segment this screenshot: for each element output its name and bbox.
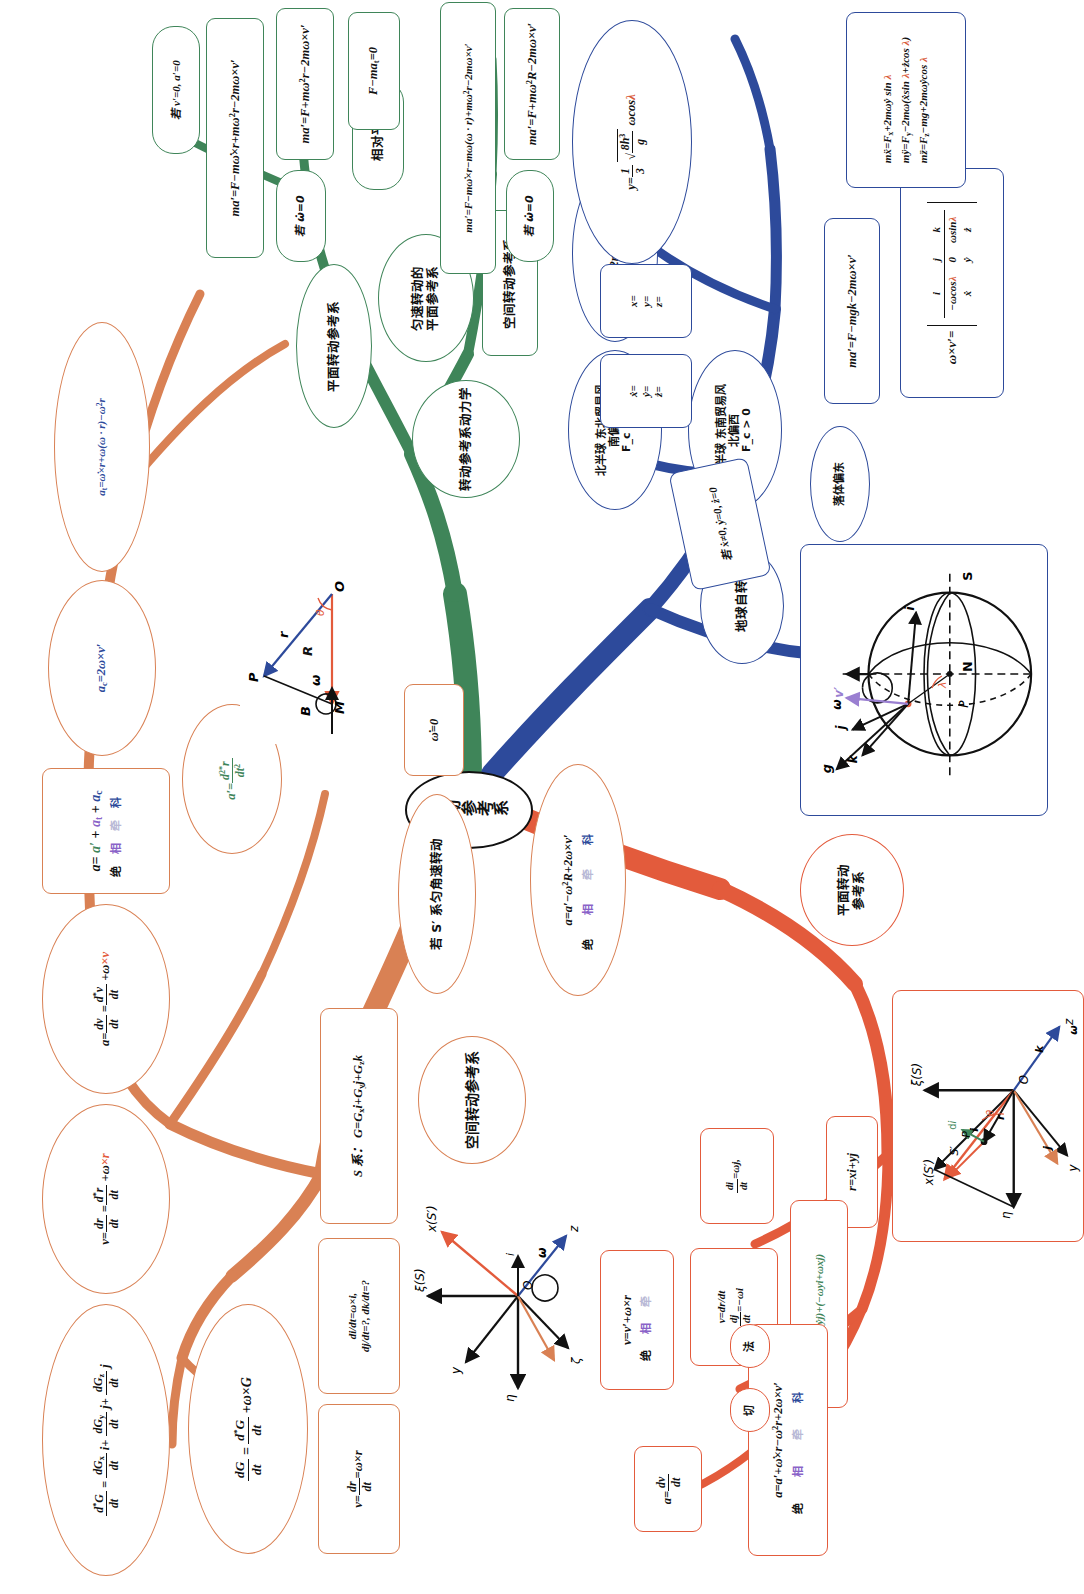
svg-text:η: η: [503, 1394, 517, 1402]
formula-cond-omega-dot-0b: 若 ω̇=0: [522, 191, 539, 240]
node-omega-dot-zero-orange[interactable]: ω̇=0: [404, 684, 464, 776]
formula-a-result: a=a′+ω̇×r−ω2r+2ω×v′: [768, 1378, 788, 1502]
node-green-plane-frame[interactable]: 平面转动参考系: [296, 264, 372, 428]
plane-a-labels: 绝相牵科: [581, 806, 598, 954]
node-v-omega-r[interactable]: v=drdt=ω×r: [318, 1404, 400, 1554]
formula-eq-plane-uniform: ma′=F+mω2r−2mω×v′: [295, 21, 315, 148]
svg-text:ω: ω: [1067, 1025, 1080, 1035]
formula-v-transform: v=drdt =d*rdt +ω×r: [90, 1149, 123, 1248]
diagram-earth: P λ g k j i v′ ω N S: [800, 544, 1048, 816]
svg-text:R: R: [300, 646, 315, 656]
node-dynamics-center[interactable]: 转动参考系动力学: [412, 380, 520, 498]
formula-a-decomposition: a= a′ + at + ac: [86, 787, 108, 876]
node-ac[interactable]: ac=2ω×v′: [48, 580, 156, 756]
node-cond-v-a-zero[interactable]: 若 v′=0, a′=0: [152, 26, 200, 154]
formula-S-frame: S 系： G=Gxi+Gyj+Gzk: [349, 1051, 368, 1181]
node-space-frame-orange[interactable]: 空间转动参考系: [418, 1036, 526, 1164]
node-deflection[interactable]: y=13 √8h3g ωcosλ: [572, 20, 692, 264]
node-falling-east[interactable]: 落体偏东: [810, 426, 870, 542]
node-dG-expand[interactable]: d*Gdt = dGxdt i+ dGydt j+ dGzdt j: [42, 1304, 170, 1576]
svg-text:O: O: [1017, 1075, 1031, 1084]
formula-ac: ac=2ω×v′: [92, 640, 111, 697]
formula-a-prime: a′=d2*rdt2: [216, 754, 249, 804]
node-S-frame[interactable]: S 系： G=Gxi+Gyj+Gzk: [320, 1008, 398, 1224]
formula-v-omega-r: v=drdt=ω×r: [343, 1446, 376, 1511]
formula-first-integrals: ẋ=ẏ=ż=: [625, 381, 668, 401]
node-di-dj-dk[interactable]: di/dt=ω×i,dj/dt=?, dk/dt=?: [318, 1238, 400, 1394]
formula-eq-motion-earth: ma′=F−mgk−2mω×v′: [843, 250, 862, 372]
node-tangent[interactable]: 切: [730, 1388, 770, 1432]
svg-text:M: M: [332, 701, 347, 714]
svg-text:θ: θ: [314, 609, 327, 616]
node-determinant[interactable]: ω×v′= i j k −ωcosλ 0 ωsinλ ẋ ẏ ż: [900, 168, 1004, 398]
svg-text:k: k: [1033, 1045, 1046, 1053]
formula-cond-omega-dot-0: 若 ω̇=0: [293, 191, 310, 240]
node-at[interactable]: at=ω̇×r+ω(ω · r)−ω2r: [54, 322, 150, 572]
formula-v-result: v=v′+ω×r: [618, 1291, 637, 1349]
diagram-space-axes: x(S′) ξ(S) η y ζ z O ω i: [406, 1188, 596, 1408]
node-eq-plane-uniform[interactable]: ma′=F+mω2r−2mω×v′: [276, 8, 334, 160]
node-eq-plane-full[interactable]: ma′=F−mω̇×r+mω2r−2mω×v′: [206, 18, 264, 258]
label-uniform-cond: 若 S′ 系匀角速转动: [428, 834, 447, 954]
node-cond-omega-dot-0b[interactable]: 若 ω̇=0: [506, 170, 554, 262]
node-eq-equilibrium[interactable]: F−mat=0: [348, 12, 400, 130]
formula-at: at=ω̇×r+ω(ω · r)−ω2r: [93, 394, 112, 499]
formula-di-dt: didt=ωj,: [722, 1155, 752, 1197]
svg-text:k: k: [846, 754, 860, 763]
svg-text:j: j: [1041, 1146, 1054, 1152]
formula-r-def: r=xi+yj: [843, 1149, 862, 1195]
svg-text:θ: θ: [985, 1110, 996, 1116]
node-dG-main[interactable]: dGdt = d*Gdt +ω×G: [188, 1304, 308, 1554]
svg-text:y: y: [449, 1366, 463, 1375]
label-red-plane-frame: 平面转动 参考系: [835, 860, 869, 920]
node-uniform-cond[interactable]: 若 S′ 系匀角速转动: [398, 794, 476, 994]
node-normal[interactable]: 法: [730, 1324, 770, 1368]
label-space-frame-orange: 空间转动参考系: [462, 1047, 483, 1153]
formula-dG-expand: d*Gdt = dGxdt i+ dGydt j+ dGzdt j: [89, 1360, 124, 1519]
formula-plane-a: a=a′−ω2R+2ω×v′: [558, 831, 578, 930]
svg-text:v′: v′: [832, 686, 846, 698]
formula-eq-plane-full: ma′=F−mω̇×r+mω2r−2mω×v′: [225, 55, 245, 220]
svg-text:z: z: [1062, 1018, 1076, 1026]
node-a-def[interactable]: a=dvdt: [634, 1446, 702, 1532]
svg-text:ξ(S): ξ(S): [910, 1063, 924, 1087]
node-second-integrals[interactable]: x=y=z=: [600, 264, 692, 338]
label-tangent: 切: [742, 1401, 759, 1420]
node-eq-space-full[interactable]: ma′=F−mω̇×r−mω(ω · r)+mω2r−2mω×v′: [440, 2, 496, 274]
node-cond-omega-dot-0[interactable]: 若 ω̇=0: [276, 170, 326, 262]
node-eq-space-uniform[interactable]: ma′=F+mω2R−2mω×v′: [504, 8, 560, 160]
formula-a-def: a=dvdt: [652, 1470, 685, 1509]
label-green-plane-frame: 平面转动参考系: [325, 297, 344, 396]
label-earth-rotation: 地球自转: [733, 576, 752, 636]
node-v-transform[interactable]: v=drdt =d*rdt +ω×r: [42, 1104, 170, 1294]
svg-text:i: i: [968, 1128, 981, 1132]
node-eq-motion-earth[interactable]: ma′=F−mgk−2mω×v′: [824, 218, 880, 404]
diagram-plane-frame: x(S′) ξ(S) η y z O P S′ r i j k ω θ di: [892, 990, 1084, 1242]
label-uniform-plane-frame: 匀速转动的 平面参考系: [409, 262, 443, 335]
node-di-dt[interactable]: didt=ωj,: [700, 1128, 774, 1224]
label-normal: 法: [742, 1337, 759, 1356]
label-dynamics-center: 转动参考系动力学: [457, 383, 476, 495]
svg-text:z: z: [567, 1225, 581, 1233]
node-a-transform[interactable]: a=dvdt =d*vdt +ω×v: [42, 904, 170, 1094]
node-scalar-equations[interactable]: mẍ=Fx+2mωẏ sin λ mÿ=Fy−2mω(ẋsin λ+żcos λ…: [846, 12, 966, 188]
formula-deflection: y=13 √8h3g ωcosλ: [615, 90, 649, 194]
svg-text:ζ: ζ: [569, 1356, 583, 1365]
svg-text:P: P: [957, 700, 971, 708]
formula-a-transform: a=dvdt =d*vdt +ω×v: [90, 948, 123, 1050]
svg-text:λ: λ: [936, 681, 949, 688]
svg-text:ξ(S): ξ(S): [413, 1268, 427, 1293]
a-result-labels: 绝相牵科: [791, 1362, 808, 1518]
node-first-integrals[interactable]: ẋ=ẏ=ż=: [600, 354, 692, 428]
node-plane-a[interactable]: a=a′−ω2R+2ω×v′ 绝相牵科: [530, 764, 626, 996]
formula-scalar-equations: mẍ=Fx+2mωẏ sin λ mÿ=Fy−2mω(ẋsin λ+żcos λ…: [877, 33, 934, 167]
node-v-result[interactable]: v=v′+ω×r 绝相牵: [600, 1250, 674, 1390]
svg-text:P: P: [246, 672, 261, 682]
node-red-plane-frame[interactable]: 平面转动 参考系: [800, 834, 904, 946]
node-a-decomposition[interactable]: a= a′ + at + ac 绝相牵科: [42, 768, 170, 894]
svg-text:η: η: [999, 1211, 1013, 1219]
svg-text:S′: S′: [948, 1146, 961, 1156]
formula-omega-dot-zero-orange: ω̇=0: [425, 715, 444, 745]
